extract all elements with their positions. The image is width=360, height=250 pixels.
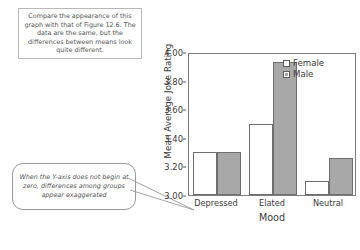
bar-group xyxy=(193,54,241,195)
x-axis-tick-label: Neutral xyxy=(313,198,343,208)
y-axis-tick-label: 3.40 xyxy=(164,134,183,144)
bar-depressed-female xyxy=(193,152,217,195)
y-axis-tick-mark xyxy=(183,196,186,197)
x-axis-tick-labels: DepressedElatedNeutral xyxy=(188,198,356,212)
bar-elated-male xyxy=(273,62,297,195)
y-axis-tick-mark xyxy=(183,138,186,139)
bar-depressed-male xyxy=(217,152,241,195)
legend-swatch-icon xyxy=(283,71,290,78)
y-axis-tick-mark xyxy=(183,167,186,168)
annotation-note-box: Compare the appearance of this graph wit… xyxy=(18,8,142,59)
y-axis-tick-label: 4.00 xyxy=(164,48,183,58)
y-axis-tick-label: 3.60 xyxy=(164,105,183,115)
y-axis-tick-labels: 3.003.203.403.603.804.00 xyxy=(148,40,186,215)
annotation-note-text: Compare the appearance of this graph wit… xyxy=(23,12,137,55)
chart-legend: FemaleMale xyxy=(283,58,324,79)
y-axis-tick-label: 3.20 xyxy=(164,162,183,172)
legend-label: Male xyxy=(293,69,313,79)
y-axis-tick-mark xyxy=(183,53,186,54)
bar-chart: Mean Average Joke Rating 3.003.203.403.6… xyxy=(140,40,360,250)
bar-neutral-female xyxy=(305,181,329,195)
plot-area xyxy=(189,54,355,195)
legend-swatch-icon xyxy=(283,60,290,67)
x-axis-title: Mood xyxy=(188,212,356,223)
legend-label: Female xyxy=(293,58,324,68)
y-axis-tick-label: 3.80 xyxy=(164,77,183,87)
y-axis-tick-mark xyxy=(183,110,186,111)
bar-elated-female xyxy=(249,124,273,196)
plot-frame xyxy=(188,53,356,196)
y-axis-tick-label: 3.00 xyxy=(164,191,183,201)
x-axis-tick-label: Elated xyxy=(259,198,285,208)
annotation-callout-box: When the Y-axis does not begin at zero, … xyxy=(12,163,136,210)
legend-item-female: Female xyxy=(283,58,324,68)
bar-neutral-male xyxy=(329,158,353,195)
x-axis-tick-label: Depressed xyxy=(194,198,238,208)
y-axis-tick-mark xyxy=(183,81,186,82)
legend-item-male: Male xyxy=(283,69,324,79)
annotation-callout-text: When the Y-axis does not begin at zero, … xyxy=(19,173,129,201)
